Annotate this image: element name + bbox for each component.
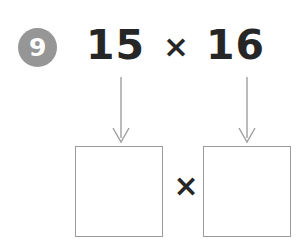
problem-expression: 15 × 16 (86, 21, 265, 69)
arrow-down-icon-right (234, 76, 260, 146)
arrow-down-icon-left (108, 76, 134, 146)
question-number-badge: 9 (18, 28, 57, 67)
multiply-icon-between-boxes: × (171, 168, 201, 204)
right-factor: 16 (206, 21, 265, 69)
multiply-icon: × (163, 28, 190, 64)
answer-box-right[interactable] (203, 146, 291, 237)
answer-box-left[interactable] (75, 146, 163, 237)
left-factor: 15 (86, 21, 145, 69)
worksheet-canvas: 9 15 × 16 × (0, 0, 301, 242)
